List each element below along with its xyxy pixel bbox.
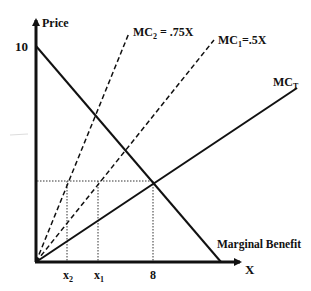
marginal-benefit-curve — [36, 46, 221, 262]
x-axis-label: X — [245, 262, 255, 277]
mc1-label: MC1=.5X — [218, 33, 267, 49]
marginal-benefit-label: Marginal Benefit — [217, 238, 301, 251]
y-tick-10: 10 — [15, 39, 28, 54]
mct-label: MCT — [273, 75, 299, 91]
scan-artifact — [10, 134, 28, 135]
mc2-curve — [36, 33, 129, 262]
y-axis-label: Price — [42, 16, 69, 30]
x-tick-8: 8 — [150, 268, 156, 282]
x2-tick-label: x2 — [63, 268, 73, 284]
x1-tick-label: x1 — [94, 268, 104, 284]
marginal-cost-benefit-diagram: Price 10 X x2 x1 8 MC2 = .75X MC1=.5X MC… — [0, 0, 311, 291]
mc2-label: MC2 = .75X — [133, 25, 194, 41]
mct-curve — [36, 88, 297, 262]
